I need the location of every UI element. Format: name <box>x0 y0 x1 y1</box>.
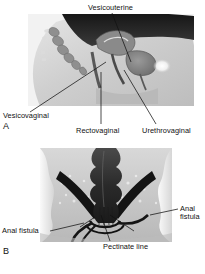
panel-b-anatomy <box>40 148 172 242</box>
panel-a-anatomy <box>28 13 196 106</box>
panel-a: Vesicouterine Vesicovaginal Rectovaginal… <box>0 0 205 137</box>
medical-illustration-figure: Vesicouterine Vesicovaginal Rectovaginal… <box>0 0 205 274</box>
panel-b-graphic <box>0 137 205 274</box>
panel-a-graphic <box>0 0 205 137</box>
panel-b: Anal fistula Sphincter muscles Pectinate… <box>0 137 205 274</box>
